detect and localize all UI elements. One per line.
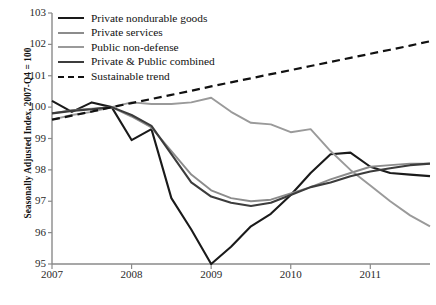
x-tick-label: 2007 — [22, 268, 82, 280]
y-tick-label: 99 — [18, 133, 46, 144]
y-tick-label: 102 — [18, 38, 46, 49]
x-tick-label: 2009 — [181, 268, 241, 280]
legend-label: Sustainable trend — [91, 71, 170, 82]
legend-label: Private services — [91, 27, 163, 38]
series-line-1 — [52, 101, 430, 264]
legend-swatch-icon — [58, 28, 84, 38]
y-tick-label: 101 — [18, 70, 46, 81]
legend-swatch-icon — [58, 57, 84, 67]
y-tick-label: 96 — [18, 227, 46, 238]
legend-item-4[interactable]: Private & Public combined — [58, 55, 298, 70]
series-line-4 — [52, 107, 430, 206]
legend-swatch-icon — [58, 13, 84, 23]
y-tick-label: 98 — [18, 164, 46, 175]
chart-container: Seasonally Adjusted Index, 2007-Q4 = 100… — [0, 0, 436, 305]
y-tick-label: 97 — [18, 195, 46, 206]
legend-label: Public non-defense — [91, 42, 179, 53]
chart-legend: Private nondurable goodsPrivate services… — [58, 11, 298, 84]
legend-swatch-icon — [58, 72, 84, 82]
x-tick-label: 2008 — [102, 268, 162, 280]
legend-swatch-icon — [58, 42, 84, 52]
legend-label: Private & Public combined — [91, 56, 215, 67]
series-line-3 — [52, 98, 430, 227]
legend-item-5[interactable]: Sustainable trend — [58, 69, 298, 84]
legend-label: Private nondurable goods — [91, 13, 207, 24]
legend-item-2[interactable]: Private services — [58, 26, 298, 41]
y-tick-label: 103 — [18, 7, 46, 18]
y-tick-label: 100 — [18, 101, 46, 112]
x-tick-label: 2010 — [261, 268, 321, 280]
legend-item-3[interactable]: Public non-defense — [58, 40, 298, 55]
legend-item-1[interactable]: Private nondurable goods — [58, 11, 298, 26]
x-tick-label: 2011 — [340, 268, 400, 280]
